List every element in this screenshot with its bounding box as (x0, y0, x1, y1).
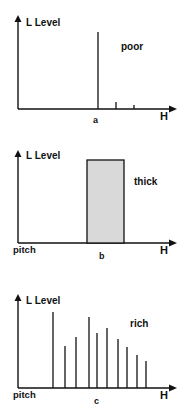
panel-c-axes (15, 294, 178, 392)
panel-a-caption: a (93, 115, 99, 125)
panel-b-y-axis-label: L Level (26, 150, 60, 161)
panel-c-x-axis-label: H (160, 389, 168, 401)
panel-a: L Level H a poor (15, 15, 178, 125)
panel-b-pitch-label: pitch (13, 244, 36, 255)
panel-c: L Level H c rich pitch (13, 294, 177, 406)
noise-band (87, 160, 124, 243)
y-axis-arrow-icon (15, 15, 22, 22)
panel-c-caption: c (94, 396, 99, 406)
panel-b-x-axis-label: H (160, 244, 168, 256)
panel-a-x-axis-label: H (160, 110, 168, 122)
x-axis-arrow-icon (169, 240, 177, 247)
panel-b: L Level H b thick pitch (13, 150, 177, 261)
panel-c-y-axis-label: L Level (26, 295, 60, 306)
panel-a-descriptor: poor (121, 41, 143, 52)
panel-a-y-axis-label: L Level (26, 17, 60, 28)
x-axis-arrow-icon (169, 106, 177, 113)
spectrum-diagram: L Level H a poor L Level H b thick pitch… (0, 0, 187, 418)
y-axis-arrow-icon (15, 294, 22, 301)
panel-a-axes (15, 15, 178, 113)
panel-b-band (87, 160, 124, 243)
y-axis-arrow-icon (15, 150, 22, 157)
panel-c-descriptor: rich (130, 318, 148, 329)
panel-b-descriptor: thick (134, 176, 158, 187)
panel-b-caption: b (99, 251, 105, 261)
panel-c-pitch-label: pitch (13, 389, 36, 400)
x-axis-arrow-icon (169, 385, 177, 392)
